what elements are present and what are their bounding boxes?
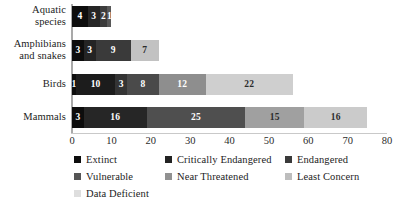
x-axis-tick-70: 70 <box>333 135 363 146</box>
category-label-line1: Aquatic <box>0 4 66 16</box>
bar-segment: 15 <box>245 107 304 128</box>
bar-segment: 22 <box>206 74 293 95</box>
legend-item[interactable]: Vulnerable <box>74 169 133 184</box>
legend-color-swatch <box>285 156 292 163</box>
legend-item[interactable]: Data Deficient <box>74 186 149 201</box>
category-label-mammals: Mammals <box>0 111 66 123</box>
bar-segment-value: 7 <box>142 46 147 56</box>
bar-segment-value: 25 <box>191 113 201 123</box>
bar-segment-value: 3 <box>91 12 96 22</box>
legend-label: Least Concern <box>297 171 359 182</box>
bar-segment-value: 2 <box>101 12 106 22</box>
bar-segment: 3 <box>88 6 100 27</box>
stacked-bar-chart: Aquatic species 4321 Amphibians and snak… <box>0 0 409 205</box>
legend-label: Extinct <box>86 154 117 165</box>
bar-segment: 12 <box>159 74 206 95</box>
bar-segment-value: 1 <box>107 12 111 22</box>
category-label-line1: Mammals <box>0 111 66 123</box>
stacked-bar-birds: 110381222 <box>72 74 293 95</box>
legend-color-swatch <box>74 156 81 163</box>
legend-color-swatch <box>74 190 81 197</box>
bar-segment: 25 <box>147 107 245 128</box>
bar-segment: 9 <box>96 40 131 61</box>
bar-segment-value: 16 <box>110 113 120 123</box>
bar-segment-value: 3 <box>87 46 92 56</box>
legend-item[interactable]: Near Threatened <box>165 169 249 184</box>
bar-segment: 8 <box>127 74 159 95</box>
x-axis-tick-20: 20 <box>136 135 166 146</box>
bar-segment: 1 <box>107 6 111 27</box>
bar-segment-value: 8 <box>140 80 145 90</box>
legend-color-swatch <box>165 156 172 163</box>
bar-segment: 4 <box>72 6 88 27</box>
x-axis-tick-0: 0 <box>57 135 87 146</box>
x-axis-line <box>71 133 387 134</box>
x-axis-tick-10: 10 <box>96 135 126 146</box>
legend-color-swatch <box>165 173 172 180</box>
bar-segment: 10 <box>76 74 115 95</box>
bar-segment-value: 16 <box>331 113 341 123</box>
x-axis-tick-80: 80 <box>372 135 402 146</box>
legend-item[interactable]: Least Concern <box>285 169 359 184</box>
x-axis-tick-40: 40 <box>215 135 245 146</box>
category-label-line1: Birds <box>0 78 66 90</box>
bar-segment-value: 12 <box>177 80 187 90</box>
bar-segment: 16 <box>84 107 147 128</box>
category-label-aquatic-species: Aquatic species <box>0 4 66 27</box>
x-axis-tick-labels: 01020304050607080 <box>0 135 409 153</box>
plot-area: Aquatic species 4321 Amphibians and snak… <box>0 0 409 140</box>
category-label-amphibians-and-snakes: Amphibians and snakes <box>0 38 66 61</box>
legend-item[interactable]: Critically Endangered <box>165 152 272 167</box>
bar-segment-value: 9 <box>111 46 116 56</box>
chart-legend: ExtinctCritically EndangeredEndangeredVu… <box>0 152 409 205</box>
stacked-bar-mammals: 316251516 <box>72 107 367 128</box>
x-axis-tick-60: 60 <box>293 135 323 146</box>
legend-label: Vulnerable <box>86 171 133 182</box>
legend-item[interactable]: Endangered <box>285 152 348 167</box>
bar-segment: 7 <box>131 40 159 61</box>
legend-label: Critically Endangered <box>177 154 272 165</box>
legend-color-swatch <box>285 173 292 180</box>
bar-segment: 3 <box>72 107 84 128</box>
legend-label: Endangered <box>297 154 348 165</box>
category-label-line1: Amphibians <box>0 38 66 50</box>
legend-label: Near Threatened <box>177 171 249 182</box>
bar-segment-value: 3 <box>119 80 124 90</box>
legend-color-swatch <box>74 173 81 180</box>
stacked-bar-amphibians-and-snakes: 3397 <box>72 40 159 61</box>
bar-segment-value: 10 <box>91 80 101 90</box>
bar-segment-value: 22 <box>244 80 254 90</box>
category-label-birds: Birds <box>0 78 66 90</box>
stacked-bar-aquatic-species: 4321 <box>72 6 111 27</box>
bar-segment: 3 <box>72 40 84 61</box>
bar-segment-value: 15 <box>270 113 280 123</box>
x-axis-tick-50: 50 <box>254 135 284 146</box>
bar-segment: 3 <box>115 74 127 95</box>
legend-label: Data Deficient <box>86 188 149 199</box>
bar-segment: 16 <box>304 107 367 128</box>
bar-segment: 2 <box>100 6 108 27</box>
category-label-line2: species <box>0 16 66 28</box>
bar-segment-value: 3 <box>75 46 80 56</box>
category-label-line2: and snakes <box>0 50 66 62</box>
bar-segment: 3 <box>84 40 96 61</box>
legend-item[interactable]: Extinct <box>74 152 117 167</box>
bar-segment-value: 3 <box>75 113 80 123</box>
bar-segment-value: 4 <box>77 12 82 22</box>
x-axis-tick-30: 30 <box>175 135 205 146</box>
